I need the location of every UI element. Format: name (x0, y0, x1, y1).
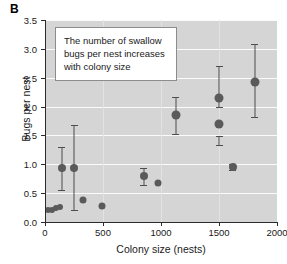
y-tick-2.5 (41, 78, 45, 79)
x-tick-0 (45, 222, 46, 226)
error-cap-lower (216, 107, 223, 108)
error-cap-upper (58, 147, 65, 148)
error-cap-lower (140, 185, 147, 186)
x-tick-label-1000: 1000 (150, 227, 171, 238)
error-cap-lower (71, 210, 78, 211)
error-cap-lower (251, 117, 258, 118)
error-cap-upper (140, 168, 147, 169)
x-tick-2000 (277, 222, 278, 226)
error-cap-upper (216, 136, 223, 137)
error-cap-lower (172, 134, 179, 135)
y-tick-2 (41, 107, 45, 108)
y-tick-label-0: 0.0 (11, 217, 37, 228)
error-bar (219, 136, 220, 145)
y-tick-3.5 (41, 20, 45, 21)
data-point (80, 197, 87, 204)
x-tick-1000 (161, 222, 162, 226)
annotation-line-2: bugs per nest increases (64, 47, 169, 60)
x-tick-label-1500: 1500 (208, 227, 229, 238)
y-tick-1.5 (41, 135, 45, 136)
data-point (155, 179, 162, 186)
data-point (215, 93, 224, 102)
annotation-line-3: with colony size (64, 60, 169, 73)
y-axis-line (45, 20, 46, 222)
y-axis-label: Bugs per nest (20, 39, 32, 179)
x-tick-label-500: 500 (95, 227, 111, 238)
x-tick-1500 (219, 222, 220, 226)
x-tick-500 (103, 222, 104, 226)
data-point (229, 163, 237, 171)
y-tick-label-0.5: 0.5 (11, 188, 37, 199)
error-cap-upper (216, 66, 223, 67)
data-point (140, 172, 148, 180)
y-tick-0.5 (41, 193, 45, 194)
annotation-line-1: The number of swallow (64, 34, 169, 47)
data-point (250, 77, 259, 86)
error-cap-upper (251, 44, 258, 45)
data-point (215, 119, 224, 128)
y-tick-3 (41, 49, 45, 50)
figure-panel-b: B 0500100015002000 0.00.51.01.52.02.53.0… (0, 0, 287, 264)
annotation-textbox: The number of swallow bugs per nest incr… (55, 27, 177, 81)
data-point (70, 164, 78, 172)
y-tick-label-3.5: 3.5 (11, 15, 37, 26)
y-tick-1 (41, 164, 45, 165)
data-point (58, 164, 66, 172)
error-cap-lower (216, 145, 223, 146)
x-tick-label-0: 0 (42, 227, 47, 238)
error-cap-upper (71, 125, 78, 126)
error-cap-upper (172, 97, 179, 98)
error-cap-lower (58, 190, 65, 191)
data-point (98, 203, 105, 210)
y-tick-0 (41, 222, 45, 223)
x-axis-label: Colony size (nests) (45, 243, 277, 255)
data-point (57, 204, 63, 210)
x-tick-label-2000: 2000 (266, 227, 287, 238)
data-point (171, 111, 180, 120)
